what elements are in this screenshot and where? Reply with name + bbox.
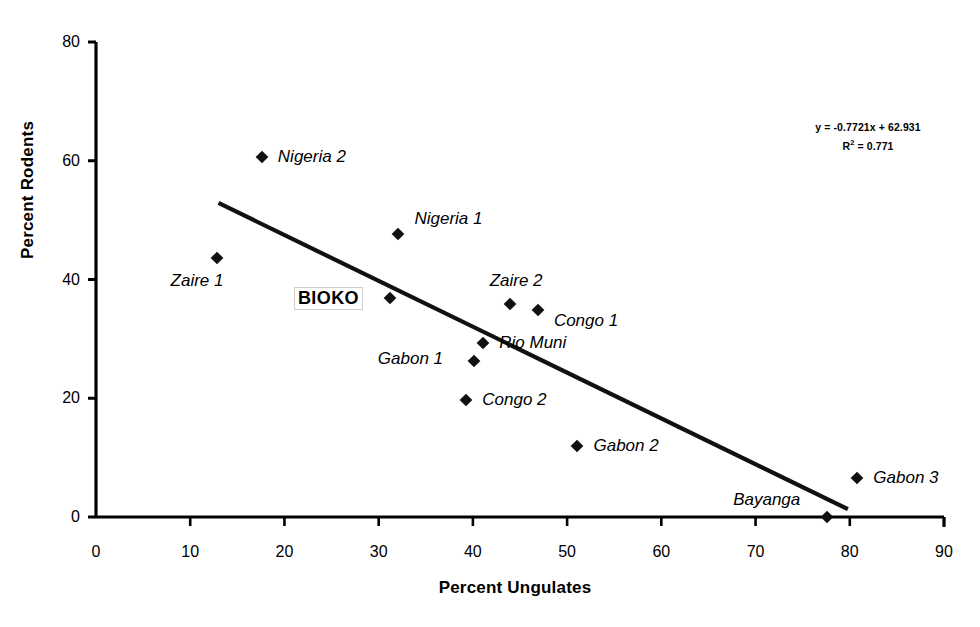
x-tick-label: 50 [547,544,587,560]
data-point-label: BIOKO [294,287,363,310]
data-point-label: Congo 1 [554,312,618,330]
chart-canvas [0,0,980,627]
trendline [218,203,847,509]
y-tick-label: 20 [40,390,80,406]
x-tick-label: 90 [924,544,964,560]
data-point-label: Nigeria 1 [414,210,482,228]
x-tick-label: 10 [170,544,210,560]
x-tick-label: 30 [359,544,399,560]
regression-annotation: y = -0.7721x + 62.931 R2 = 0.771 [762,120,974,154]
y-tick-label: 40 [40,272,80,288]
data-point-label: Congo 2 [482,391,546,409]
data-point-label: Bayanga [733,491,800,509]
data-point-label: Zaire 1 [171,272,224,290]
data-point-label: Nigeria 2 [278,148,346,166]
r-squared-line: R2 = 0.771 [762,135,974,154]
x-tick-label: 40 [453,544,493,560]
trendline-path [218,203,847,509]
y-tick-label: 80 [40,34,80,50]
y-tick-label: 60 [40,153,80,169]
data-point-label: Gabon 2 [593,437,658,455]
y-tick-label: 0 [40,509,80,525]
x-axis-title: Percent Ungulates [0,578,980,598]
data-point-label: Rio Muni [499,334,566,352]
data-point-label: Gabon 3 [873,469,938,487]
regression-equation: y = -0.7721x + 62.931 [762,120,974,135]
x-tick-label: 0 [76,544,116,560]
x-tick-label: 60 [641,544,681,560]
scatter-chart: Percent Rodents Percent Ungulates 020406… [0,0,980,627]
x-tick-label: 20 [264,544,304,560]
data-point-label: Zaire 2 [490,272,543,290]
data-point-label: Gabon 1 [378,350,443,368]
r-squared-exponent: 2 [850,138,854,147]
y-axis-title: Percent Rodents [18,70,38,310]
x-tick-label: 80 [830,544,870,560]
x-tick-label: 70 [736,544,776,560]
r-squared-value: = 0.771 [857,140,893,152]
